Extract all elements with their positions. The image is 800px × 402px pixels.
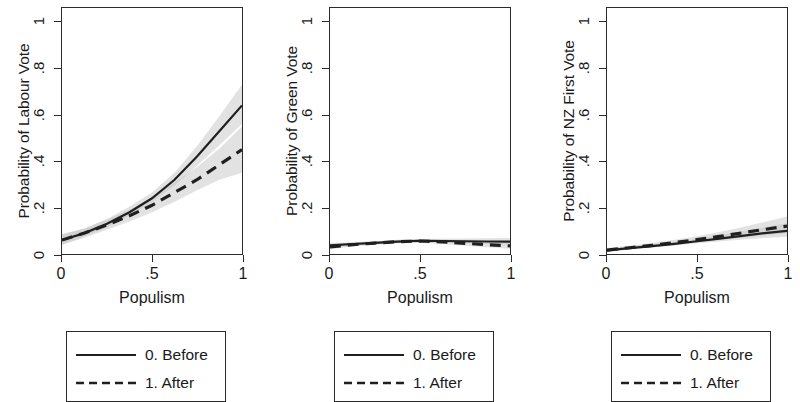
y-tick-label: .4 <box>26 153 52 169</box>
x-axis-title: Populism <box>329 288 511 308</box>
y-tick-mark <box>322 68 329 69</box>
x-tick-label: 0 <box>589 264 623 284</box>
plot-curves-nz-first <box>607 8 787 254</box>
panel-labour-vote: Probability of Labour Vote Populism 0. B… <box>0 0 270 402</box>
y-tick-label: .8 <box>571 60 597 76</box>
y-tick-mark <box>54 208 61 209</box>
plot-area-nz-first <box>606 7 788 255</box>
plot-curves-green <box>330 8 510 254</box>
y-tick-mark <box>322 208 329 209</box>
legend-key-dashed-icon <box>75 377 137 389</box>
y-axis-title: Probability of NZ First Vote <box>559 7 579 255</box>
legend-item-before: 0. Before <box>67 342 225 368</box>
x-tick-mark <box>606 255 607 262</box>
y-tick-label: .6 <box>294 107 320 123</box>
legend-item-before: 0. Before <box>335 342 493 368</box>
legend-label-after: 1. After <box>145 374 194 392</box>
x-tick-mark <box>329 255 330 262</box>
y-tick-label: .6 <box>26 107 52 123</box>
legend-labour: 0. Before 1. After <box>66 331 226 402</box>
legend-nz-first: 0. Before 1. After <box>611 331 771 402</box>
y-tick-label: .2 <box>571 200 597 216</box>
y-axis-title: Probability of Labour Vote <box>14 7 34 255</box>
legend-item-after: 1. After <box>67 370 225 396</box>
y-tick-label: .2 <box>294 200 320 216</box>
legend-key-dashed-icon <box>343 377 405 389</box>
legend-label-before: 0. Before <box>690 346 753 364</box>
y-tick-label: .2 <box>26 200 52 216</box>
y-tick-mark <box>599 208 606 209</box>
plot-area-labour <box>61 7 243 255</box>
legend-label-after: 1. After <box>413 374 462 392</box>
y-tick-label: .8 <box>294 60 320 76</box>
y-tick-mark <box>322 255 329 256</box>
y-tick-mark <box>54 115 61 116</box>
legend-label-before: 0. Before <box>413 346 476 364</box>
y-tick-label: 1 <box>26 13 52 29</box>
x-tick-label: 0 <box>312 264 346 284</box>
x-tick-label: 1 <box>771 264 800 284</box>
x-tick-mark <box>420 255 421 262</box>
legend-key-dashed-icon <box>620 377 682 389</box>
x-axis-title: Populism <box>61 288 243 308</box>
legend-item-before: 0. Before <box>612 342 770 368</box>
y-tick-mark <box>54 68 61 69</box>
y-tick-label: 0 <box>294 247 320 263</box>
panel-nz-first-vote: Probability of NZ First Vote Populism 0.… <box>545 0 800 402</box>
y-tick-label: .4 <box>571 153 597 169</box>
x-tick-label: .5 <box>680 264 714 284</box>
y-tick-label: .6 <box>571 107 597 123</box>
y-tick-mark <box>599 115 606 116</box>
figure-panel-group: Probability of Labour Vote Populism 0. B… <box>0 0 800 402</box>
x-tick-mark <box>61 255 62 262</box>
y-tick-label: .8 <box>26 60 52 76</box>
x-tick-mark <box>697 255 698 262</box>
y-tick-mark <box>54 255 61 256</box>
x-tick-mark <box>243 255 244 262</box>
y-tick-label: 1 <box>294 13 320 29</box>
y-tick-mark <box>599 68 606 69</box>
legend-key-solid-icon <box>75 349 137 361</box>
x-tick-label: .5 <box>403 264 437 284</box>
legend-item-after: 1. After <box>335 370 493 396</box>
y-tick-mark <box>322 161 329 162</box>
x-tick-mark <box>788 255 789 262</box>
x-tick-label: .5 <box>135 264 169 284</box>
legend-green: 0. Before 1. After <box>334 331 494 402</box>
x-tick-label: 0 <box>44 264 78 284</box>
plot-curves-labour <box>62 8 242 254</box>
legend-label-after: 1. After <box>690 374 739 392</box>
legend-key-solid-icon <box>343 349 405 361</box>
y-tick-label: 0 <box>26 247 52 263</box>
x-tick-label: 1 <box>494 264 528 284</box>
y-tick-mark <box>54 161 61 162</box>
legend-key-solid-icon <box>620 349 682 361</box>
y-tick-mark <box>599 255 606 256</box>
y-tick-label: 0 <box>571 247 597 263</box>
x-tick-label: 1 <box>226 264 260 284</box>
y-tick-mark <box>54 21 61 22</box>
x-tick-mark <box>152 255 153 262</box>
panel-green-vote: Probability of Green Vote Populism 0. Be… <box>268 0 538 402</box>
legend-label-before: 0. Before <box>145 346 208 364</box>
y-tick-mark <box>599 21 606 22</box>
y-tick-mark <box>322 115 329 116</box>
y-tick-label: .4 <box>294 153 320 169</box>
legend-item-after: 1. After <box>612 370 770 396</box>
y-tick-mark <box>599 161 606 162</box>
plot-area-green <box>329 7 511 255</box>
y-tick-mark <box>322 21 329 22</box>
x-tick-mark <box>511 255 512 262</box>
x-axis-title: Populism <box>606 288 788 308</box>
y-tick-label: 1 <box>571 13 597 29</box>
y-axis-title: Probability of Green Vote <box>282 7 302 255</box>
